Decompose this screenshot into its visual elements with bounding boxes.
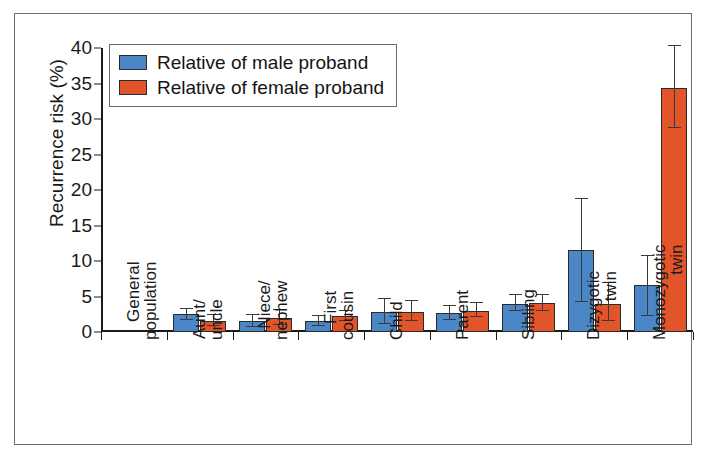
x-tick-mark — [561, 332, 562, 340]
error-bar — [542, 295, 543, 311]
error-bar — [674, 46, 675, 128]
error-bar — [647, 256, 648, 316]
x-axis-label: Firstcousin — [322, 291, 357, 340]
y-tick-mark — [94, 48, 101, 49]
error-bar — [581, 199, 582, 303]
x-axis-label-line: cousin — [340, 291, 357, 340]
y-tick-mark — [94, 190, 101, 191]
chart-figure: Recurrence risk (%) 0510152025303540 Gen… — [0, 0, 706, 458]
x-axis-label: Monozygotictwin — [651, 245, 686, 340]
x-axis-label-line: General — [124, 262, 143, 322]
error-bar — [411, 301, 412, 322]
error-bar — [476, 303, 477, 317]
x-axis-label: Child — [388, 301, 405, 340]
y-tick-mark — [94, 332, 101, 333]
x-axis-label: Aunt/uncle — [191, 299, 226, 340]
chart-legend: Relative of male proband Relative of fem… — [109, 44, 397, 107]
x-axis-label-line: Monozygotic — [650, 245, 669, 340]
x-tick-mark — [496, 332, 497, 340]
error-bar — [449, 306, 450, 320]
x-tick-mark — [298, 332, 299, 340]
x-axis-label: Sibling — [520, 289, 537, 340]
error-cap-upper — [378, 298, 391, 299]
x-axis-label: Niece/nephew — [256, 280, 291, 340]
y-tick-mark — [94, 225, 101, 226]
error-cap-upper — [405, 300, 418, 301]
x-axis-label-line: population — [142, 262, 159, 340]
legend-label-male: Relative of male proband — [157, 52, 368, 74]
legend-swatch-female-icon — [119, 80, 147, 95]
y-tick-mark — [94, 83, 101, 84]
legend-item-male: Relative of male proband — [119, 50, 384, 75]
x-tick-mark — [693, 332, 694, 340]
legend-swatch-male-icon — [119, 55, 147, 70]
figure-frame: Recurrence risk (%) 0510152025303540 Gen… — [14, 13, 692, 445]
x-axis-label-line: Sibling — [519, 289, 538, 340]
x-axis-label-line: Parent — [453, 290, 472, 340]
x-axis-label-line: Aunt/ — [190, 299, 209, 339]
x-tick-mark — [167, 332, 168, 340]
y-axis-line — [101, 48, 103, 332]
x-tick-mark — [627, 332, 628, 340]
error-cap-upper — [668, 45, 681, 46]
error-bar — [515, 295, 516, 311]
error-bar — [384, 299, 385, 324]
y-tick-mark — [94, 296, 101, 297]
error-cap-upper — [470, 302, 483, 303]
x-axis-label: Parent — [454, 290, 471, 340]
y-tick-mark — [94, 154, 101, 155]
error-cap-lower — [470, 316, 483, 317]
x-axis-label: Dizygotictwin — [585, 271, 620, 340]
y-tick-mark — [94, 261, 101, 262]
error-cap-lower — [668, 127, 681, 128]
x-axis-label-line: twin — [603, 271, 620, 340]
x-axis-label: Generalpopulation — [125, 262, 160, 340]
x-axis-label-line: Child — [387, 301, 406, 340]
x-tick-mark — [364, 332, 365, 340]
x-tick-mark — [233, 332, 234, 340]
x-axis-label-line: nephew — [274, 280, 291, 340]
error-cap-upper — [575, 198, 588, 199]
legend-label-female: Relative of female proband — [157, 77, 384, 99]
x-tick-mark — [101, 332, 102, 340]
y-tick-mark — [94, 119, 101, 120]
x-axis-label-line: uncle — [208, 299, 225, 340]
error-cap-lower — [405, 320, 418, 321]
x-tick-mark — [430, 332, 431, 340]
y-axis-title: Recurrence risk (%) — [46, 13, 68, 273]
legend-item-female: Relative of female proband — [119, 75, 384, 100]
x-axis-label-line: twin — [668, 245, 685, 340]
